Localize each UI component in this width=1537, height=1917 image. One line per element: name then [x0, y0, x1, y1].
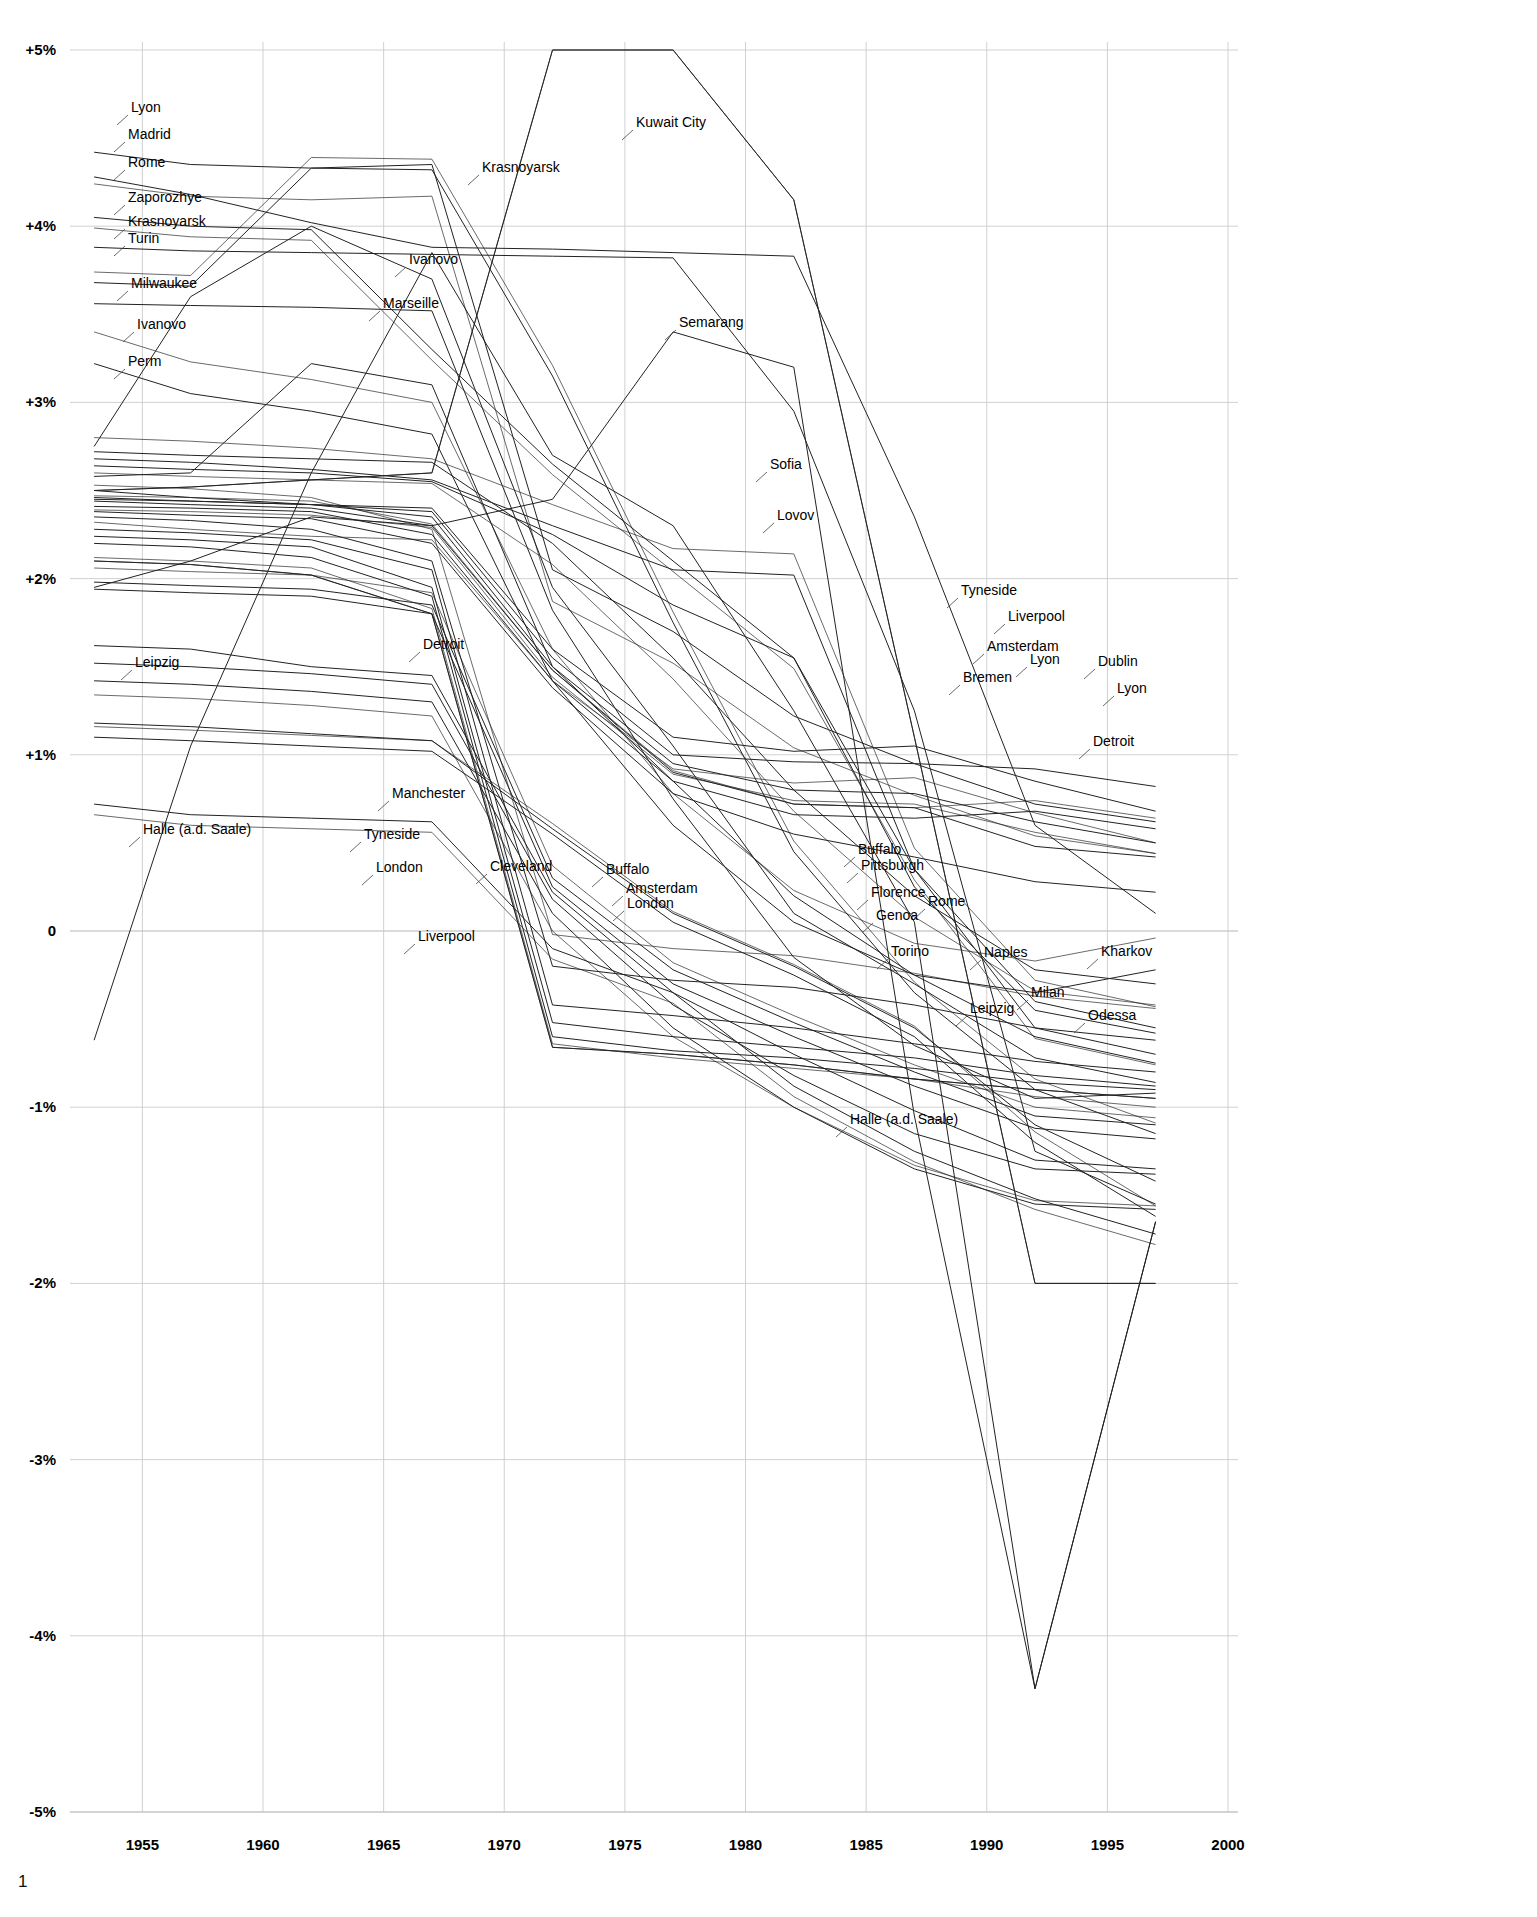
chart-page: +5%+4%+3%+2%+1%0-1%-2%-3%-4%-5%195519601… [0, 0, 1537, 1917]
x-axis-tick-label: 1955 [126, 1836, 159, 1853]
series-callout-label: London [627, 895, 674, 911]
callout-leader-line [121, 670, 132, 680]
y-axis-tick-label: +5% [26, 41, 56, 58]
series-callout-label: Milwaukee [131, 275, 197, 291]
callout-leader-line [763, 523, 774, 533]
callout-leader-line [1079, 749, 1090, 759]
callout-leader-line [973, 654, 984, 664]
series-callout-label: Kharkov [1101, 943, 1152, 959]
series-callout-label: Halle (a.d. Saale) [143, 821, 251, 837]
x-axis-tick-label: 1980 [729, 1836, 762, 1853]
y-axis-tick-label: +3% [26, 393, 56, 410]
series-callout-label: Madrid [128, 126, 171, 142]
x-axis-tick-label: 1975 [608, 1836, 641, 1853]
series-callouts: LyonMadridRomeZaporozhyeKrasnoyarskTurin… [114, 99, 1152, 1137]
x-axis-tick-label: 1985 [849, 1836, 882, 1853]
series-callout-label: Krasnoyarsk [482, 159, 561, 175]
series-callout-label: Buffalo [858, 841, 902, 857]
axis-ticks: +5%+4%+3%+2%+1%0-1%-2%-3%-4%-5%195519601… [26, 41, 1245, 1853]
series-callout-label: Detroit [423, 636, 464, 652]
series-callout-label: Zaporozhye [128, 189, 202, 205]
callout-leader-line [117, 291, 128, 301]
series-callout-label: Bremen [963, 669, 1012, 685]
series-callout-label: Dublin [1098, 653, 1138, 669]
callout-leader-line [350, 842, 361, 852]
series-callout-label: Leipzig [970, 1000, 1014, 1016]
y-axis-tick-label: -2% [29, 1274, 56, 1291]
series-callout-label: Amsterdam [626, 880, 698, 896]
series-callout-label: Ivanovo [137, 316, 186, 332]
series-callout-label: Lyon [131, 99, 161, 115]
callout-leader-line [409, 652, 420, 662]
series-callout-label: Sofia [770, 456, 802, 472]
callout-leader-line [1016, 667, 1027, 677]
series-callout-label: Florence [871, 884, 926, 900]
callout-leader-line [114, 142, 125, 152]
series-callout-label: Perm [128, 353, 161, 369]
series-callout-label: Turin [128, 230, 159, 246]
series-callout-label: Tyneside [364, 826, 420, 842]
series-callout-label: Halle (a.d. Saale) [850, 1111, 958, 1127]
callout-leader-line [847, 873, 858, 883]
series-callout-label: Odessa [1088, 1007, 1136, 1023]
callout-leader-line [1084, 669, 1095, 679]
x-axis-tick-label: 2000 [1211, 1836, 1244, 1853]
y-axis-tick-label: +4% [26, 217, 56, 234]
series-callout-label: Leipzig [135, 654, 179, 670]
y-axis-tick-label: +2% [26, 570, 56, 587]
callout-leader-line [369, 311, 380, 321]
callout-leader-line [949, 685, 960, 695]
series-callout-label: Cleveland [490, 858, 552, 874]
series-callout-label: Rome [128, 154, 166, 170]
callout-leader-line [114, 246, 125, 256]
grid-lines [70, 42, 1238, 1812]
series-callout-label: Liverpool [418, 928, 475, 944]
series-callout-label: Buffalo [606, 861, 650, 877]
callout-leader-line [123, 332, 134, 342]
x-axis-tick-label: 1965 [367, 1836, 400, 1853]
series-callout-label: Detroit [1093, 733, 1134, 749]
callout-leader-line [844, 857, 855, 867]
page-number: 1 [18, 1872, 27, 1892]
callout-leader-line [1103, 696, 1114, 706]
callout-leader-line [956, 1016, 967, 1026]
series-callout-label: Manchester [392, 785, 465, 801]
callout-leader-line [129, 837, 140, 847]
series-callout-label: London [376, 859, 423, 875]
callout-leader-line [476, 874, 487, 884]
callout-leader-line [665, 330, 676, 340]
y-axis-tick-label: -5% [29, 1803, 56, 1820]
callout-leader-line [947, 598, 958, 608]
series-callout-label: Naples [984, 944, 1028, 960]
series-callout-label: Ivanovo [409, 251, 458, 267]
callout-leader-line [117, 115, 128, 125]
series-callout-label: Lyon [1117, 680, 1147, 696]
series-callout-label: Lyon [1030, 651, 1060, 667]
y-axis-tick-label: +1% [26, 746, 56, 763]
series-callout-label: Tyneside [961, 582, 1017, 598]
callout-leader-line [468, 175, 479, 185]
callout-leader-line [612, 896, 623, 906]
series-callout-label: Liverpool [1008, 608, 1065, 624]
callout-leader-line [994, 624, 1005, 634]
series-callout-label: Torino [891, 943, 929, 959]
series-callout-label: Semarang [679, 314, 744, 330]
callout-leader-line [1074, 1023, 1085, 1033]
series-callout-label: Milan [1031, 984, 1064, 1000]
callout-leader-line [114, 205, 125, 215]
series-callout-label: Pittsburgh [861, 857, 924, 873]
series-callout-label: Genoa [876, 907, 918, 923]
series-callout-label: Kuwait City [636, 114, 706, 130]
series-callout-label: Marseille [383, 295, 439, 311]
y-axis-tick-label: -1% [29, 1098, 56, 1115]
y-axis-tick-label: -3% [29, 1451, 56, 1468]
y-axis-tick-label: -4% [29, 1627, 56, 1644]
x-axis-tick-label: 1995 [1091, 1836, 1124, 1853]
callout-leader-line [1087, 959, 1098, 969]
series-callout-label: Krasnoyarsk [128, 213, 207, 229]
series-callout-label: Lovov [777, 507, 814, 523]
callout-leader-line [114, 170, 125, 180]
callout-leader-line [404, 944, 415, 954]
x-axis-tick-label: 1970 [488, 1836, 521, 1853]
series-callout-label: Rome [928, 893, 966, 909]
